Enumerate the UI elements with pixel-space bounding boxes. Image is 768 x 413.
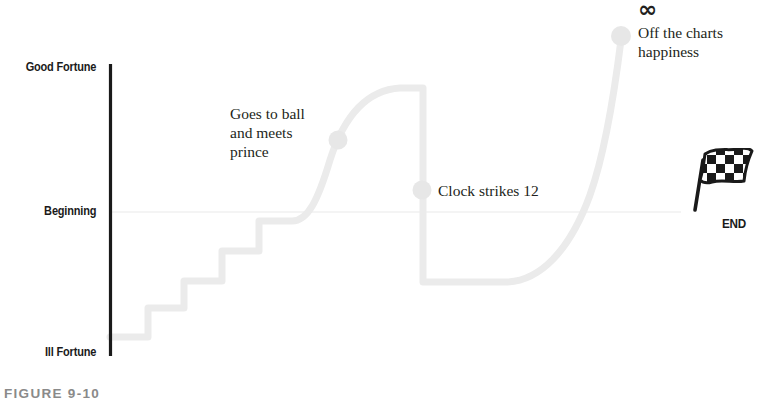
marker-off-the-charts: [611, 26, 631, 46]
annotation-clock-strikes-12: Clock strikes 12: [438, 181, 539, 200]
annotation-goes-to-ball: Goes to ball and meets prince: [230, 104, 305, 161]
story-arc-chart: [0, 0, 768, 413]
infinity-icon: ∞: [638, 0, 657, 22]
story-arc-curve: [110, 40, 621, 337]
annotation-off-the-charts-happiness: Off the charts happiness: [638, 23, 723, 61]
marker-clock-strikes-12: [413, 181, 432, 200]
checkered-flag-icon: [692, 148, 754, 214]
end-label: END: [722, 216, 746, 231]
figure-caption: FIGURE 9-10: [4, 386, 100, 401]
axis-label-ill-fortune: Ill Fortune: [45, 345, 96, 359]
axis-label-beginning: Beginning: [44, 204, 96, 218]
figure-container: Good Fortune Beginning Ill Fortune Goes …: [0, 0, 768, 413]
axis-label-good-fortune: Good Fortune: [25, 60, 96, 74]
marker-goes-to-ball: [329, 131, 348, 150]
